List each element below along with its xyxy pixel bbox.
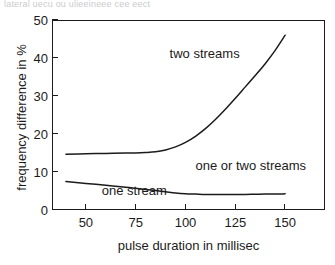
x-tick-mark <box>135 204 136 210</box>
y-tick-mark <box>52 171 58 172</box>
x-tick-label: 75 <box>128 216 142 229</box>
y-tick-label: 20 <box>34 128 48 141</box>
x-tick-label: 150 <box>274 216 296 229</box>
region-label: two streams <box>170 46 240 61</box>
x-axis-title: pulse duration in millisec <box>52 238 325 253</box>
x-tick-label: 100 <box>175 216 197 229</box>
y-tick-mark <box>52 209 58 210</box>
y-tick-mark <box>52 95 58 96</box>
x-tick-mark <box>185 204 186 210</box>
y-axis-title: frequency difference in % <box>14 23 29 213</box>
y-tick-mark <box>52 57 58 58</box>
y-tick-label: 50 <box>34 14 48 27</box>
y-tick-label: 10 <box>34 166 48 179</box>
x-tick-label: 50 <box>79 216 93 229</box>
y-tick-label: 0 <box>41 204 48 217</box>
region-label: one stream <box>102 183 167 198</box>
y-tick-mark <box>52 133 58 134</box>
x-tick-label: 125 <box>224 216 246 229</box>
chart-figure: lateral uecu ou ulieeineee cee eect 0102… <box>0 0 335 265</box>
x-tick-mark <box>235 204 236 210</box>
y-tick-label: 30 <box>34 90 48 103</box>
region-label: one or two streams <box>195 158 306 173</box>
y-tick-mark <box>52 19 58 20</box>
scan-text-remnant: lateral uecu ou ulieeineee cee eect <box>4 0 184 7</box>
y-tick-label: 40 <box>34 52 48 65</box>
x-tick-mark <box>85 204 86 210</box>
x-tick-mark <box>284 204 285 210</box>
